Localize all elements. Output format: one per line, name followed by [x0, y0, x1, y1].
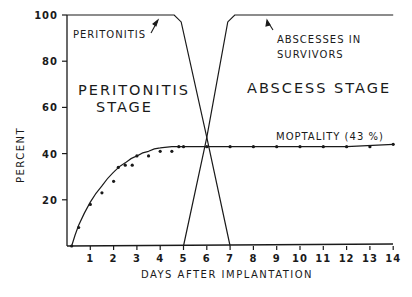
mortality-data-point — [205, 145, 208, 148]
mortality-data-point — [124, 164, 127, 167]
y-tick-label: 40 — [42, 149, 58, 160]
y-tick-label: 100 — [34, 10, 58, 21]
mortality-data-point — [229, 145, 232, 148]
mortality-fitted-curvecurve — [72, 144, 394, 246]
mortality-data-point — [252, 145, 255, 148]
mortality-data-point — [322, 145, 325, 148]
x-tick-label: 8 — [249, 253, 257, 264]
x-tick-label: 3 — [133, 253, 141, 264]
x-tick-label: 10 — [292, 253, 308, 264]
peritonitis-annotation: PERITONITIS — [73, 29, 146, 40]
y-axis-label: PERCENT — [15, 127, 26, 183]
mortality-data-point — [147, 154, 150, 157]
x-tick-label: 11 — [315, 253, 331, 264]
y-tick-label: 80 — [42, 56, 58, 67]
x-tick-label: 2 — [110, 253, 118, 264]
mortality-data-point — [131, 164, 134, 167]
x-ticks: 1234567891011121314 — [86, 246, 401, 264]
peritonitis-stage-label-1: PERITONITIS — [78, 82, 190, 98]
peritonitis-stage-label-2: STAGE — [96, 99, 153, 115]
x-tick-label: 13 — [362, 253, 378, 264]
x-tick-label: 14 — [385, 253, 401, 264]
mortality-annotation: MOPTALITY (43 %) — [276, 131, 384, 142]
peritonitiscurve — [67, 15, 230, 246]
mortality-data-point — [275, 145, 278, 148]
x-tick-label: 1 — [86, 253, 94, 264]
mortality-data-point — [100, 191, 103, 194]
mortality-data-point — [345, 145, 348, 148]
y-tick-label: 60 — [42, 102, 58, 113]
y-ticks: 20406080100 — [34, 10, 67, 206]
mortality-data-point — [182, 145, 185, 148]
mortality-data-point — [89, 203, 92, 206]
mortality-data-point — [170, 150, 173, 153]
mortality-data-point — [177, 145, 180, 148]
x-tick-label: 5 — [180, 253, 188, 264]
mortality-data-point — [368, 145, 371, 148]
mortality-data-point — [77, 226, 80, 229]
chart: 20406080100 1234567891011121314 PERCENT … — [0, 0, 412, 297]
mortality-data-point — [159, 150, 162, 153]
x-tick-label: 7 — [226, 253, 234, 264]
peritonitis-arrow-icon — [151, 20, 158, 33]
abscess-stage-label: ABSCESS STAGE — [247, 80, 391, 96]
data-points — [70, 143, 395, 248]
mortality-data-point — [112, 180, 115, 183]
x-tick-label: 6 — [203, 253, 211, 264]
mortality-data-point — [117, 166, 120, 169]
x-tick-label: 12 — [339, 253, 355, 264]
mortality-data-point — [135, 154, 138, 157]
x-tick-label: 4 — [156, 253, 164, 264]
abscess-annotation-line1: ABSCESSES IN — [277, 34, 361, 45]
mortality-data-point — [298, 145, 301, 148]
y-tick-label: 20 — [42, 195, 58, 206]
x-axis-label: DAYS AFTER IMPLANTATION — [141, 269, 313, 280]
abscess-annotation-line2: SURVIVORS — [277, 49, 344, 60]
mortality-data-point — [392, 143, 395, 146]
abscess-arrow-icon — [266, 20, 273, 30]
x-tick-label: 9 — [273, 253, 281, 264]
mortality-data-point — [70, 244, 73, 247]
